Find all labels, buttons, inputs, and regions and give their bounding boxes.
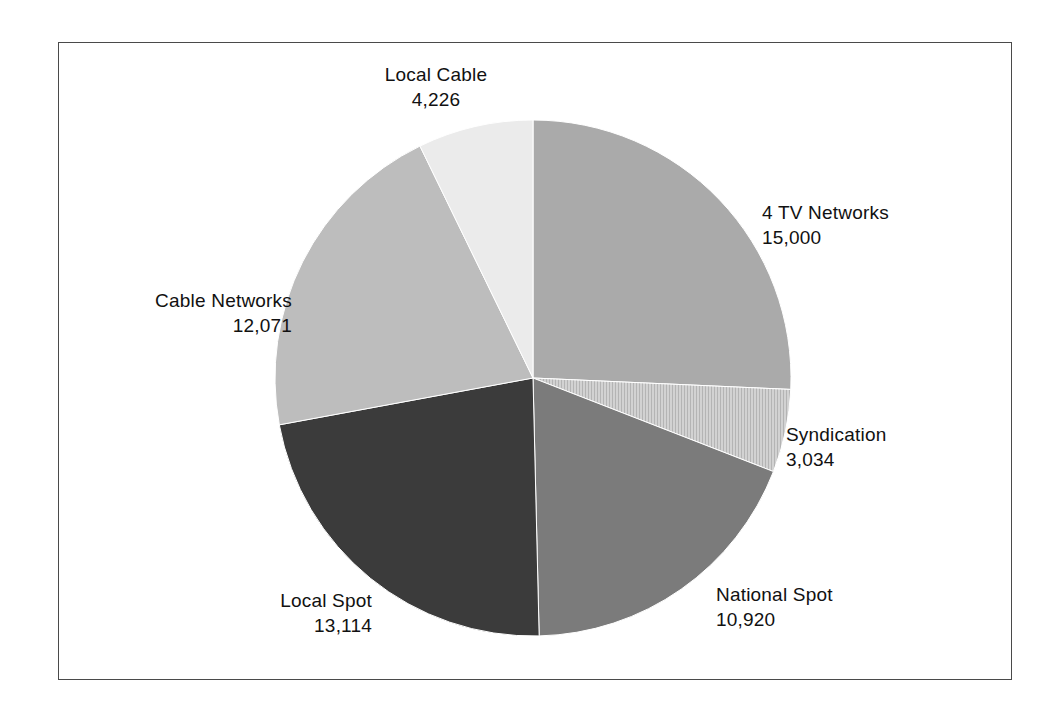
pie-label-syndication-value: 3,034 <box>786 447 976 472</box>
pie-slice-group: 4 TV Networks 15,000Syndication 3,034Nat… <box>275 120 791 636</box>
pie-label-local-cable: Local Cable 4,226 <box>356 62 516 112</box>
pie-label-national-spot-name: National Spot <box>716 582 916 607</box>
pie-label-syndication-name: Syndication <box>786 422 976 447</box>
pie-label-cable-networks: Cable Networks 12,071 <box>112 288 292 338</box>
pie-label-tv-networks: 4 TV Networks 15,000 <box>762 200 962 250</box>
pie-label-local-spot-name: Local Spot <box>212 588 372 613</box>
pie-chart-figure: 4 TV Networks 15,000Syndication 3,034Nat… <box>0 0 1062 714</box>
pie-label-local-cable-value: 4,226 <box>356 87 516 112</box>
pie-label-national-spot: National Spot 10,920 <box>716 582 916 632</box>
pie-slice-4-tv-networks: 4 TV Networks 15,000 <box>533 120 791 389</box>
pie-label-tv-networks-value: 15,000 <box>762 225 962 250</box>
pie-label-syndication: Syndication 3,034 <box>786 422 976 472</box>
pie-label-local-spot-value: 13,114 <box>212 613 372 638</box>
pie-label-cable-networks-name: Cable Networks <box>112 288 292 313</box>
pie-label-national-spot-value: 10,920 <box>716 607 916 632</box>
pie-label-cable-networks-value: 12,071 <box>112 313 292 338</box>
pie-label-tv-networks-name: 4 TV Networks <box>762 200 962 225</box>
pie-label-local-spot: Local Spot 13,114 <box>212 588 372 638</box>
pie-label-local-cable-name: Local Cable <box>356 62 516 87</box>
